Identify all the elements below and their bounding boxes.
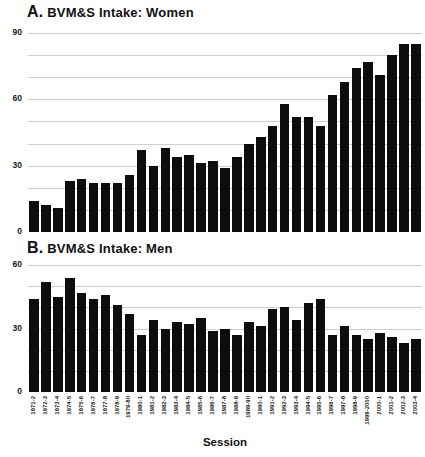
bar-cell — [243, 265, 255, 392]
bar-cell — [410, 33, 422, 232]
bar — [184, 155, 194, 232]
bar-cell — [88, 33, 100, 232]
bar-cell — [267, 265, 279, 392]
bar-cell — [315, 33, 327, 232]
bar-cell — [291, 33, 303, 232]
bar — [268, 309, 278, 392]
bar — [256, 137, 266, 232]
bar — [208, 161, 218, 232]
bar — [292, 320, 302, 392]
bar — [268, 126, 278, 232]
y-tick-label: 30 — [0, 161, 22, 170]
bar — [161, 148, 171, 232]
bar — [411, 44, 421, 232]
bar-cell — [231, 33, 243, 232]
bar — [292, 117, 302, 232]
bar — [65, 278, 75, 392]
y-tick-label: 90 — [0, 28, 22, 37]
bar-cell — [326, 265, 338, 392]
chart-b-title: B. BVM&S Intake: Men — [27, 239, 173, 257]
bar-cell — [386, 265, 398, 392]
bar — [387, 55, 397, 232]
bar-cell — [374, 265, 386, 392]
bar — [411, 339, 421, 392]
bar-cell — [171, 265, 183, 392]
bar-cell — [28, 265, 40, 392]
bar-cell — [112, 265, 124, 392]
bar-cell — [338, 33, 350, 232]
bar-cell — [207, 33, 219, 232]
bar-cell — [183, 33, 195, 232]
bar-cell — [315, 265, 327, 392]
bar — [196, 318, 206, 392]
bar — [53, 297, 63, 392]
bar-cell — [267, 33, 279, 232]
bar — [363, 62, 373, 232]
y-tick-label: 60 — [0, 94, 22, 103]
bar-cell — [350, 265, 362, 392]
bar-cell — [100, 265, 112, 392]
bar — [375, 75, 385, 232]
bar-cell — [147, 265, 159, 392]
bar — [352, 335, 362, 392]
bar — [280, 307, 290, 392]
bar — [65, 181, 75, 232]
bar-cell — [243, 33, 255, 232]
bar-cell — [303, 33, 315, 232]
bar — [53, 208, 63, 232]
bar-series — [28, 265, 422, 392]
bar-cell — [159, 265, 171, 392]
bar — [137, 150, 147, 232]
chart-a-panel-letter: A. — [27, 3, 43, 20]
bar-cell — [279, 265, 291, 392]
bar-cell — [76, 265, 88, 392]
bar-cell — [124, 33, 136, 232]
bar — [232, 335, 242, 392]
bar — [220, 168, 230, 232]
bar — [101, 295, 111, 392]
bar — [399, 343, 409, 392]
bar — [172, 322, 182, 392]
bar — [244, 322, 254, 392]
bar — [316, 299, 326, 392]
bar — [161, 329, 171, 393]
chart-a-title: A. BVM&S Intake: Women — [27, 3, 194, 21]
bar-cell — [231, 265, 243, 392]
bar-cell — [386, 33, 398, 232]
bar-cell — [76, 33, 88, 232]
bar — [77, 293, 87, 392]
bar — [340, 82, 350, 232]
bar-cell — [28, 33, 40, 232]
bar — [137, 335, 147, 392]
bar-cell — [147, 33, 159, 232]
bar-cell — [171, 33, 183, 232]
bar-cell — [291, 265, 303, 392]
bar-cell — [64, 265, 76, 392]
bar-cell — [350, 33, 362, 232]
bar — [304, 117, 314, 232]
bar — [184, 324, 194, 392]
bar — [208, 331, 218, 392]
y-tick-label: 60 — [0, 260, 22, 269]
x-axis-title: Session — [28, 436, 422, 448]
chart-b-panel-letter: B. — [27, 239, 43, 256]
bar-cell — [279, 33, 291, 232]
bar — [256, 326, 266, 392]
bar — [29, 201, 39, 232]
bar — [113, 305, 123, 392]
bar — [363, 339, 373, 392]
dual-panel-bar-chart: A. BVM&S Intake: Women 0306090 B. BVM&S … — [0, 0, 425, 457]
bar-cell — [52, 265, 64, 392]
bar — [387, 337, 397, 392]
bar-cell — [112, 33, 124, 232]
bar-cell — [135, 33, 147, 232]
bar-cell — [303, 265, 315, 392]
bar-cell — [124, 265, 136, 392]
bar-cell — [100, 33, 112, 232]
bar — [172, 157, 182, 232]
bar — [316, 126, 326, 232]
y-tick-label: 0 — [0, 387, 22, 396]
bar-cell — [64, 33, 76, 232]
bar-cell — [255, 265, 267, 392]
bar-cell — [326, 33, 338, 232]
